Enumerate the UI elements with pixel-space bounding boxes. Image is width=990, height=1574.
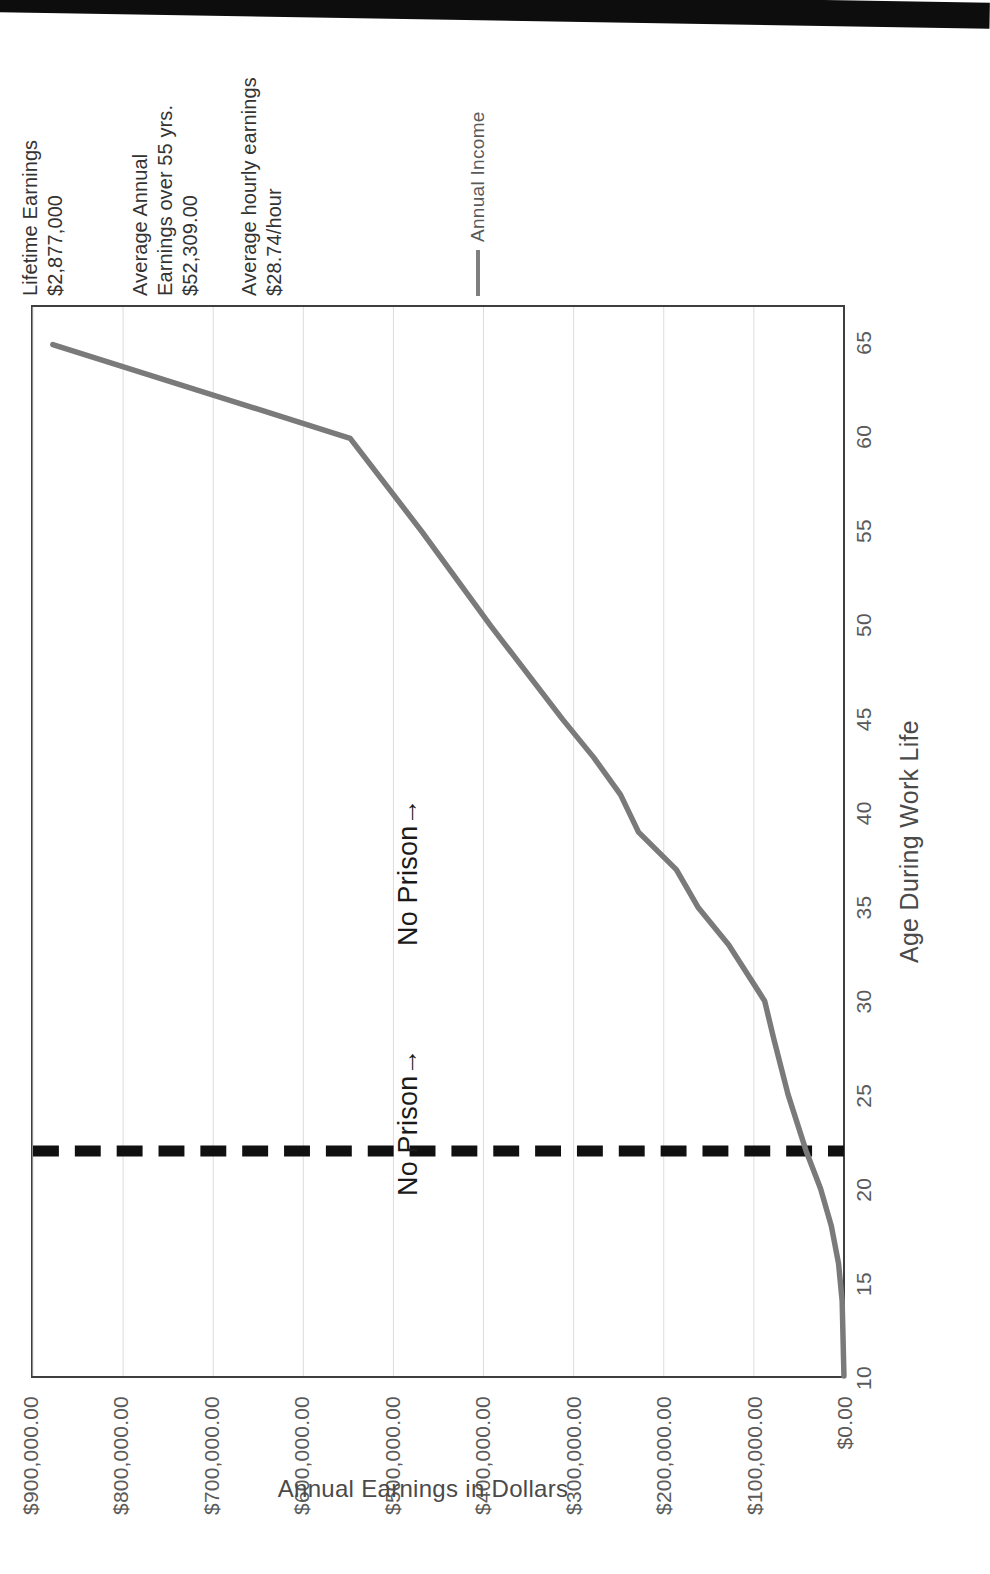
x-tick-25: 25 — [852, 1084, 876, 1108]
plot-area — [33, 307, 844, 1376]
x-tick-50: 50 — [852, 613, 876, 637]
x-tick-15: 15 — [852, 1272, 876, 1296]
chart-legend: Annual Income — [467, 111, 489, 296]
plot-frame: No Prison→ No Prison→ — [31, 305, 845, 1378]
average-annual-earnings-note: Average Annual Earnings over 55 yrs. $52… — [128, 105, 203, 296]
lifetime-earnings-note: Lifetime Earnings $2,877,000 — [18, 140, 68, 296]
x-tick-40: 40 — [852, 801, 876, 825]
x-tick-10: 10 — [852, 1366, 876, 1390]
x-tick-65: 65 — [852, 331, 876, 355]
x-tick-30: 30 — [852, 989, 876, 1013]
y-axis-title: Annual Earnings in Dollars — [16, 1475, 830, 1503]
average-hourly-earnings-note: Average hourly earnings $28.74/hour — [237, 77, 287, 296]
x-tick-35: 35 — [852, 895, 876, 919]
legend-label: Annual Income — [467, 111, 489, 242]
x-tick-60: 60 — [852, 425, 876, 449]
no-prison-annotation-left: No Prison→ — [393, 1048, 424, 1196]
annual-income-line-series — [53, 345, 844, 1376]
y-tick-0: $0.00 — [833, 1396, 857, 1450]
legend-line-swatch-icon — [476, 250, 480, 296]
x-axis-tick-labels: 101520253035404550556065 — [852, 305, 882, 1378]
x-tick-20: 20 — [852, 1178, 876, 1202]
no-prison-annotation-right: No Prison→ — [393, 798, 424, 946]
x-tick-55: 55 — [852, 519, 876, 543]
x-axis-title: Age During Work Life — [895, 305, 924, 1378]
x-tick-45: 45 — [852, 707, 876, 731]
